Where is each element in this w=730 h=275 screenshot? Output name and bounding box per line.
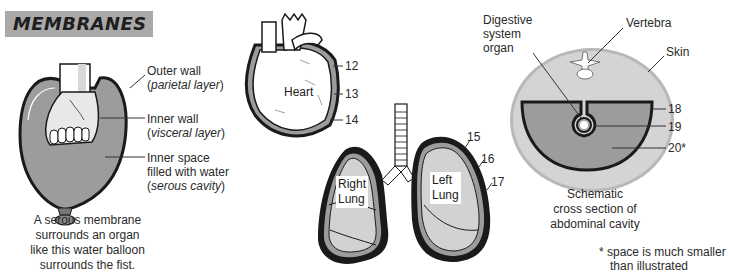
- outer-wall-text: Outer wall: [147, 64, 201, 78]
- left-lung-text-1: Left: [432, 173, 459, 188]
- footnote-line-2: than illustrated: [599, 259, 726, 273]
- label-18: 18: [668, 102, 681, 116]
- heart-illustration: [246, 14, 343, 136]
- outer-wall-label: Outer wall (parietal layer): [147, 64, 224, 92]
- label-12: 12: [345, 59, 358, 73]
- digestive-organ-label: Digestive system organ: [483, 13, 532, 55]
- footnote: * space is much smaller than illustrated: [599, 245, 726, 273]
- balloon-caption: A serous membrane surrounds an organ lik…: [15, 213, 160, 273]
- cross-section-caption-line: Schematic: [540, 187, 650, 202]
- label-19: 19: [668, 120, 681, 134]
- vertebra-label: Vertebra: [626, 16, 671, 30]
- inner-wall-text: Inner wall: [147, 112, 198, 126]
- label-17: 17: [491, 175, 504, 189]
- cross-section-caption-line: cross section of: [540, 202, 650, 217]
- balloon-caption-line: surrounds the fist.: [15, 258, 160, 273]
- inner-space-label: Inner space filled with water (serous ca…: [147, 151, 229, 193]
- label-13: 13: [345, 87, 358, 101]
- balloon-caption-line: A serous membrane: [15, 213, 160, 228]
- cross-section-caption: Schematic cross section of abdominal cav…: [540, 187, 650, 232]
- footnote-line-1: * space is much smaller: [599, 245, 726, 259]
- inner-wall-label: Inner wall (visceral layer): [147, 112, 225, 140]
- label-20: 20*: [668, 141, 686, 155]
- digestive-text-3: organ: [483, 41, 532, 55]
- left-lung-label: Left Lung: [430, 172, 461, 204]
- balloon-caption-line: surrounds an organ: [15, 228, 160, 243]
- cross-section-caption-line: abdominal cavity: [540, 217, 650, 232]
- label-15: 15: [467, 130, 480, 144]
- water-balloon-illustration: [20, 64, 145, 225]
- inner-space-text-2: filled with water: [147, 165, 229, 179]
- serous-cavity-term: serous cavity: [151, 179, 221, 193]
- skin-label: Skin: [666, 45, 689, 59]
- right-lung-label: Right Lung: [336, 176, 368, 208]
- balloon-caption-line: like this water balloon: [15, 243, 160, 258]
- right-lung-text-1: Right: [338, 177, 366, 192]
- inner-space-text-1: Inner space: [147, 151, 210, 165]
- heart-label: Heart: [282, 84, 315, 100]
- digestive-text-2: system: [483, 27, 532, 41]
- left-lung-text-2: Lung: [432, 188, 459, 203]
- label-16: 16: [481, 152, 494, 166]
- right-lung-text-2: Lung: [338, 192, 366, 207]
- visceral-layer-term: visceral layer: [151, 126, 221, 140]
- parietal-layer-term: parietal layer: [151, 78, 220, 92]
- label-14: 14: [345, 113, 358, 127]
- digestive-text-1: Digestive: [483, 13, 532, 27]
- abdominal-cross-section-illustration: [510, 28, 674, 192]
